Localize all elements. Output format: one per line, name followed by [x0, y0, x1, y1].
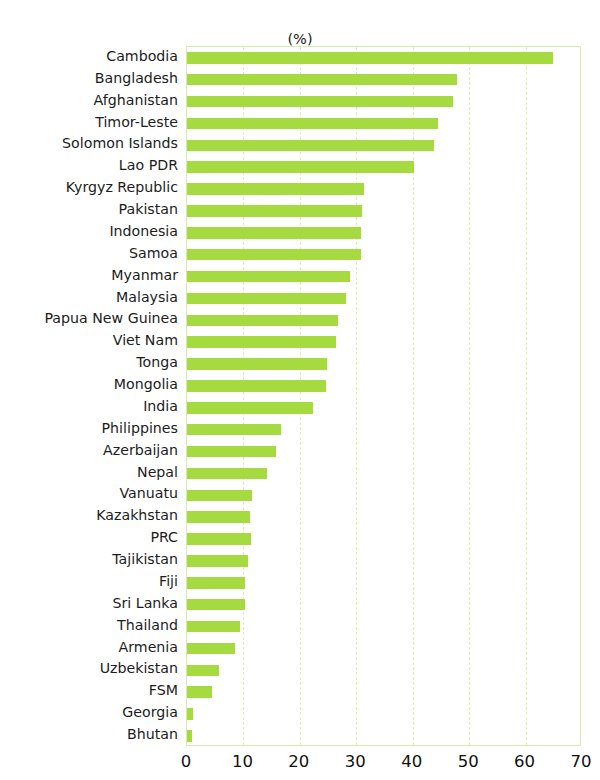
category-label: Tonga [0, 354, 178, 371]
category-label: Cambodia [0, 48, 178, 65]
bar-row [187, 681, 580, 703]
category-label: Bangladesh [0, 70, 178, 87]
plot-area [186, 46, 581, 746]
bar-row [187, 222, 580, 244]
bar [187, 424, 281, 436]
bar-row [187, 725, 580, 747]
category-label: Georgia [0, 704, 178, 721]
category-label: Mongolia [0, 376, 178, 393]
category-label: Timor-Leste [0, 114, 178, 131]
bar [187, 227, 361, 239]
bar-row [187, 200, 580, 222]
bar-row [187, 703, 580, 725]
x-tick-label: 10 [212, 752, 272, 772]
bar [187, 511, 250, 523]
category-label: Azerbaijan [0, 442, 178, 459]
bar-row [187, 572, 580, 594]
chart-subtitle: (%) [0, 31, 600, 47]
category-label: India [0, 398, 178, 415]
bar [187, 96, 453, 108]
bar-row [187, 310, 580, 332]
category-label: FSM [0, 682, 178, 699]
bar [187, 490, 252, 502]
bar [187, 555, 248, 567]
bar [187, 402, 313, 414]
chart-figure: (%) CambodiaBangladeshAfghanistanTimor-L… [0, 0, 600, 780]
bar-row [187, 331, 580, 353]
category-axis-labels: CambodiaBangladeshAfghanistanTimor-Leste… [0, 46, 178, 746]
bar-row [187, 91, 580, 113]
bar-row [187, 113, 580, 135]
bar-row [187, 244, 580, 266]
bar [187, 140, 434, 152]
bar-row [187, 616, 580, 638]
bar [187, 336, 336, 348]
x-tick-label: 20 [269, 752, 329, 772]
bar-row [187, 156, 580, 178]
bar [187, 74, 457, 86]
bar [187, 599, 245, 611]
bar-row [187, 397, 580, 419]
bar [187, 708, 193, 720]
value-axis-labels: 010203040506070 [186, 752, 581, 778]
bar-row [187, 419, 580, 441]
x-tick-label: 30 [325, 752, 385, 772]
bar [187, 315, 338, 327]
category-label: Solomon Islands [0, 135, 178, 152]
bar [187, 293, 346, 305]
category-label: Samoa [0, 245, 178, 262]
bar-series [187, 47, 580, 745]
bar-row [187, 506, 580, 528]
category-label: Kyrgyz Republic [0, 179, 178, 196]
bar [187, 468, 267, 480]
x-tick-label: 0 [156, 752, 216, 772]
bar-row [187, 594, 580, 616]
bar-row [187, 550, 580, 572]
bar-row [187, 463, 580, 485]
bar [187, 380, 326, 392]
bar [187, 621, 240, 633]
bar [187, 161, 414, 173]
category-label: Malaysia [0, 289, 178, 306]
category-label: Uzbekistan [0, 660, 178, 677]
bar [187, 183, 364, 195]
bar-row [187, 485, 580, 507]
bar [187, 118, 438, 130]
bar-row [187, 69, 580, 91]
bar [187, 358, 327, 370]
category-label: Afghanistan [0, 92, 178, 109]
bar [187, 271, 350, 283]
category-label: Sri Lanka [0, 595, 178, 612]
bar-row [187, 47, 580, 69]
category-label: Papua New Guinea [0, 310, 178, 327]
bar [187, 730, 192, 742]
x-tick-label: 40 [382, 752, 442, 772]
category-label: Philippines [0, 420, 178, 437]
category-label: Tajikistan [0, 551, 178, 568]
category-label: Viet Nam [0, 332, 178, 349]
bar-row [187, 375, 580, 397]
category-label: Nepal [0, 464, 178, 481]
category-label: Fiji [0, 573, 178, 590]
category-label: Lao PDR [0, 157, 178, 174]
bar [187, 686, 212, 698]
bar-row [187, 288, 580, 310]
category-label: Vanuatu [0, 485, 178, 502]
category-label: Indonesia [0, 223, 178, 240]
category-label: PRC [0, 529, 178, 546]
category-label: Armenia [0, 639, 178, 656]
bar [187, 643, 235, 655]
bar-row [187, 266, 580, 288]
category-label: Kazakhstan [0, 507, 178, 524]
x-tick-label: 50 [438, 752, 498, 772]
bar [187, 446, 276, 458]
bar-row [187, 528, 580, 550]
category-label: Bhutan [0, 726, 178, 743]
category-label: Myanmar [0, 267, 178, 284]
bar [187, 533, 251, 545]
bar-row [187, 178, 580, 200]
bar [187, 205, 362, 217]
bar [187, 665, 219, 677]
bar [187, 577, 245, 589]
x-tick-label: 60 [495, 752, 555, 772]
